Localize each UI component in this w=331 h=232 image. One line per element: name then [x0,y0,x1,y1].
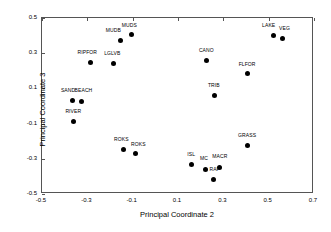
y-axis-tick-label: -0.3 [19,154,37,161]
data-point [133,151,138,156]
data-point-label: ROKS [114,136,129,142]
x-axis-tick-label: -0.5 [36,197,46,204]
data-point [79,99,84,104]
data-point [118,38,123,43]
x-axis-tick [223,18,224,21]
y-axis-tick-label: 0.5 [19,14,37,21]
x-axis-tick [314,18,315,21]
data-point-label: MUDB [106,27,121,33]
x-axis-tick [178,18,179,21]
x-axis-tick-label: 0.5 [263,197,271,204]
data-point-label: GRASS [238,132,256,138]
data-point [203,167,208,172]
data-point-label: CANO [199,47,214,53]
x-axis-tick [269,18,270,21]
data-point [245,143,250,148]
data-point [271,33,276,38]
data-point [189,162,194,167]
data-point-label: MACR [212,153,227,159]
y-axis-title: Principal Coordinate 3 [38,22,47,198]
data-point-label: BEACH [75,87,93,93]
data-point [129,32,134,37]
y-axis-tick-label: -0.1 [19,119,37,126]
data-point-label: FLFOR [239,61,256,67]
x-axis-tick-label: -0.3 [81,197,91,204]
y-axis-tick-label: 0.1 [19,84,37,91]
data-point [245,71,250,76]
data-point [204,58,209,63]
data-point-label: MUDS [122,22,137,28]
scatter-plot-figure: MUDBMUDSLAKEVEGCANORIPFORLGLVBFLFORTRIBS… [0,0,331,232]
x-axis-tick-label: 0.3 [218,197,226,204]
data-point-label: LGLVB [104,50,120,56]
data-point-label: TRIB [208,82,220,88]
data-point [280,36,285,41]
data-point [71,119,76,124]
x-axis-tick-label: -0.1 [126,197,136,204]
data-point [211,177,216,182]
data-point-label: RIPFOR [78,49,98,55]
data-point-label: ISL [187,151,195,157]
y-axis-tick-label: 0.3 [19,49,37,56]
y-axis-tick-label: -0.5 [19,190,37,197]
data-point-label: SAND [61,87,75,93]
data-point [70,98,75,103]
x-axis-tick-label: 0.7 [309,197,317,204]
data-point-label: RAP [209,166,220,172]
data-point [121,147,126,152]
data-point [111,61,116,66]
x-axis-tick-label: 0.1 [173,197,181,204]
plot-area: MUDBMUDSLAKEVEGCANORIPFORLGLVBFLFORTRIBS… [41,17,313,193]
data-point [212,93,217,98]
data-point-label: MC [200,155,208,161]
x-axis-tick [87,18,88,21]
data-point [88,60,93,65]
data-point-label: LAKE [262,22,275,28]
y-axis-tick [42,18,45,19]
data-point-label: ROKS [131,141,146,147]
x-axis-title: Principal Coordinate 2 [41,210,313,219]
data-point-label: VEG [279,25,290,31]
data-point-label: RIVER [65,108,81,114]
